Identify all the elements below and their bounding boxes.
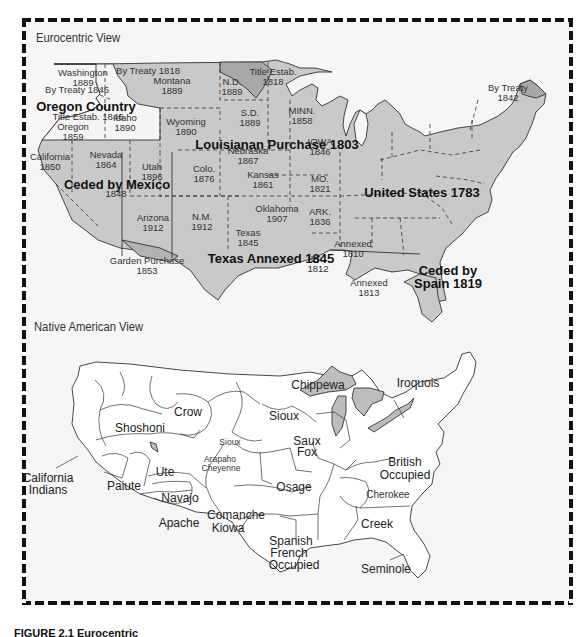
pointer-california-indians [56, 456, 78, 468]
tribe-shoshoni: Shoshoni [115, 421, 165, 435]
tribe-osage: Osage [276, 480, 312, 494]
tribe-sioux-small: Sioux [219, 437, 241, 447]
tribe-seminole: Seminole [361, 562, 411, 576]
tribe-sioux: Sioux [269, 409, 299, 423]
tribe-apache: Apache [159, 516, 200, 530]
tribe-spanish-french-occupied: SpanishFrenchOccupied [269, 534, 320, 572]
tribe-crow: Crow [174, 405, 202, 419]
tribe-paiute: Paiute [107, 479, 141, 493]
tribe-chippewa: Chippewa [291, 378, 345, 392]
figure-caption: FIGURE 2.1 Eurocentric [14, 627, 138, 637]
native-american-map: Chippewa Iroquois Crow Sioux Shoshoni Sa… [0, 0, 584, 637]
pointer-seminole [390, 554, 404, 560]
tribe-california-indians: CaliforniaIndians [23, 471, 74, 497]
tribe-navajo: Navajo [161, 491, 199, 505]
tribe-iroquois: Iroquois [397, 376, 440, 390]
tribe-arapaho-cheyenne: ArapahoCheyenne [202, 454, 241, 473]
tribe-saux-fox: SauxFox [293, 434, 320, 459]
tribe-ute: Ute [156, 465, 175, 479]
tribe-cherokee: Cherokee [366, 489, 410, 500]
tribe-creek: Creek [361, 517, 394, 531]
